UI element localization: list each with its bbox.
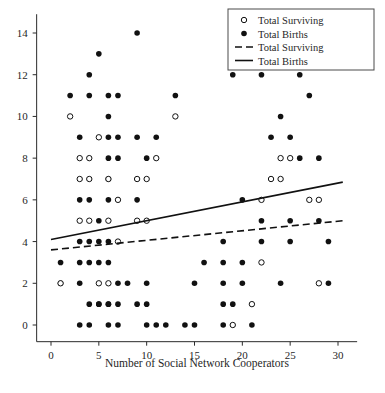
data-point-surviving	[259, 260, 264, 265]
data-point-births	[106, 93, 112, 99]
data-point-births	[192, 280, 198, 286]
data-point-births	[249, 322, 255, 328]
data-point-births	[201, 260, 207, 266]
data-point-births	[220, 301, 226, 307]
y-tick-label: 10	[17, 110, 29, 122]
y-tick-label: 6	[22, 194, 28, 206]
data-point-births	[106, 197, 112, 203]
trend-line-surviving	[51, 221, 343, 250]
data-point-births	[77, 260, 83, 266]
scatter-chart: 05101520253002468101214Number of Social …	[0, 0, 385, 393]
data-point-surviving	[230, 322, 235, 327]
data-point-surviving	[77, 176, 82, 181]
data-point-surviving	[134, 176, 139, 181]
data-point-surviving	[77, 218, 82, 223]
data-point-births	[268, 134, 274, 140]
data-point-births	[192, 322, 198, 328]
data-point-births	[316, 155, 322, 161]
y-tick-label: 2	[22, 277, 28, 289]
data-point-births	[163, 322, 169, 328]
data-point-births	[115, 93, 121, 99]
data-point-births	[287, 218, 293, 224]
data-point-births	[106, 322, 112, 328]
y-tick-label: 4	[22, 236, 28, 248]
data-point-births	[259, 72, 265, 78]
legend-entry-label: Total Births	[258, 29, 308, 40]
legend-entry-label: Total Surviving	[258, 42, 324, 53]
data-point-surviving	[173, 114, 178, 119]
data-point-births	[287, 134, 293, 140]
data-point-births	[220, 280, 226, 286]
data-point-births	[326, 239, 332, 245]
data-point-surviving	[144, 176, 149, 181]
data-point-births	[96, 260, 102, 266]
data-point-births	[77, 197, 83, 203]
data-point-births	[134, 134, 140, 140]
data-point-births	[220, 322, 226, 328]
data-point-surviving	[115, 197, 120, 202]
data-point-births	[144, 301, 150, 307]
data-point-births	[220, 239, 226, 245]
data-point-births	[106, 301, 112, 307]
data-point-births	[106, 134, 112, 140]
data-point-births	[278, 114, 284, 120]
plot-area: 05101520253002468101214Number of Social …	[0, 0, 385, 393]
data-point-births	[86, 322, 92, 328]
data-point-births	[86, 260, 92, 266]
data-point-births	[240, 280, 246, 286]
data-point-births	[77, 280, 83, 286]
x-tick-label: 30	[333, 349, 345, 361]
data-point-births	[115, 280, 121, 286]
data-point-births	[86, 301, 92, 307]
data-point-births	[134, 30, 140, 36]
data-point-surviving	[249, 301, 254, 306]
data-point-births	[77, 239, 83, 245]
data-point-births	[106, 155, 112, 161]
data-point-surviving	[278, 155, 283, 160]
data-point-births	[86, 72, 92, 78]
data-point-surviving	[87, 218, 92, 223]
x-axis-title: Number of Social Network Cooperators	[105, 357, 289, 370]
data-point-surviving	[278, 176, 283, 181]
data-point-surviving	[106, 176, 111, 181]
data-point-births	[96, 239, 102, 245]
y-tick-label: 14	[17, 27, 29, 39]
data-point-births	[106, 260, 112, 266]
data-point-surviving	[154, 155, 159, 160]
legend-entry-label: Total Surviving	[258, 15, 324, 26]
data-point-births	[96, 301, 102, 307]
data-point-surviving	[87, 176, 92, 181]
data-point-births	[134, 197, 140, 203]
data-point-births	[259, 239, 265, 245]
data-point-surviving	[67, 114, 72, 119]
y-tick-label: 12	[17, 69, 28, 81]
data-point-births	[240, 260, 246, 266]
data-point-surviving	[106, 281, 111, 286]
data-point-surviving	[316, 197, 321, 202]
data-point-births	[115, 155, 121, 161]
data-point-births	[297, 72, 303, 78]
data-point-births	[125, 280, 131, 286]
data-point-births	[220, 260, 226, 266]
data-point-births	[77, 134, 83, 140]
data-point-births	[115, 322, 121, 328]
data-point-surviving	[87, 155, 92, 160]
legend-marker-open-circle-icon	[241, 17, 246, 22]
x-tick-label: 0	[48, 349, 54, 361]
data-point-births	[287, 239, 293, 245]
data-point-births	[58, 260, 64, 266]
legend-entry-label: Total Births	[258, 56, 308, 67]
data-point-surviving	[96, 281, 101, 286]
data-point-births	[86, 93, 92, 99]
data-point-surviving	[58, 281, 63, 286]
data-point-births	[230, 301, 236, 307]
data-point-surviving	[77, 155, 82, 160]
data-point-surviving	[268, 176, 273, 181]
trend-line-births	[51, 182, 343, 239]
data-point-births	[326, 280, 332, 286]
legend-marker-filled-circle-icon	[241, 31, 247, 37]
data-point-births	[230, 72, 236, 78]
data-point-births	[67, 93, 73, 99]
data-point-births	[153, 134, 159, 140]
data-point-births	[115, 134, 121, 140]
